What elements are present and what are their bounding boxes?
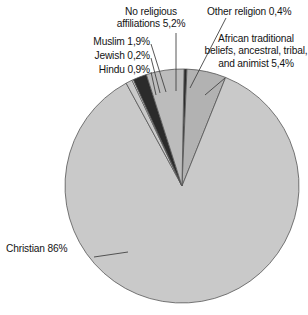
slice-label-muslim: Muslim 1,9% — [58, 36, 150, 48]
slice-label-no-religious-affiliations: No religious affiliations 5,2% — [103, 6, 199, 31]
slice-label-other-religion: Other religion 0,4% — [207, 6, 307, 18]
slice-label-african-traditional: African traditional beliefs, ancestral, … — [204, 33, 308, 70]
slice-label-hindu: Hindu 0,9% — [58, 64, 150, 76]
slice-label-christian: Christian 86% — [6, 243, 92, 255]
pie-slices-group — [65, 69, 299, 303]
slice-label-jewish: Jewish 0,2% — [58, 50, 150, 62]
pie-chart-figure: Muslim 1,9% Jewish 0,2% Hindu 0,9% No re… — [0, 0, 308, 315]
